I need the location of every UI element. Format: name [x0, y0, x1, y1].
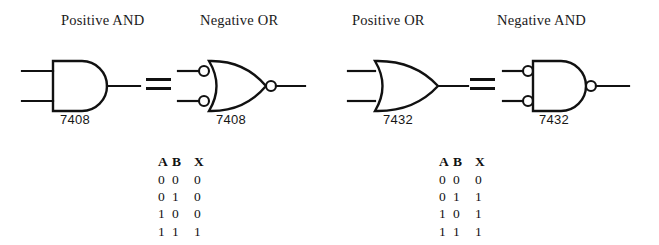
cell-a: 0: [439, 173, 453, 190]
cell-x: 1: [194, 225, 208, 242]
input-bubble-a-icon: [523, 66, 533, 76]
gate-positive-or: [348, 56, 473, 118]
cell-x: 1: [475, 207, 489, 224]
cell-b: 0: [453, 173, 475, 190]
table-row: 0 1 0: [158, 190, 208, 207]
cell-a: 1: [439, 225, 453, 242]
equals-bar-bottom: [146, 87, 171, 90]
part-number-7432-and: 7432: [539, 112, 569, 127]
header-x: X: [475, 155, 489, 173]
output-bubble-icon: [586, 81, 596, 91]
cell-b: 0: [453, 207, 475, 224]
header-a: A: [158, 155, 172, 173]
input-bubble-b-icon: [199, 96, 209, 106]
and-gate-body: [533, 61, 586, 111]
header-b: B: [172, 155, 194, 173]
cell-b: 0: [172, 173, 194, 190]
cell-a: 1: [158, 207, 172, 224]
equals-sign-2: [470, 78, 495, 90]
cell-a: 1: [158, 225, 172, 242]
input-bubble-a-icon: [199, 66, 209, 76]
part-number-7408-or: 7408: [216, 112, 246, 127]
table-row: 0 0 0: [439, 173, 489, 190]
cell-b: 1: [453, 225, 475, 242]
table-row: 1 0 1: [439, 207, 489, 224]
cell-x: 0: [194, 190, 208, 207]
equals-bar-top: [470, 78, 495, 81]
cell-b: 0: [172, 207, 194, 224]
cell-x: 1: [475, 225, 489, 242]
title-negative-and: Negative AND: [497, 12, 586, 29]
gate-negative-and: [503, 56, 643, 118]
gate-positive-and: [22, 56, 147, 118]
header-x: X: [194, 155, 208, 173]
title-positive-or: Positive OR: [352, 12, 425, 29]
cell-x: 0: [194, 207, 208, 224]
part-number-7432-or: 7432: [383, 112, 413, 127]
table-row: 1 0 0: [158, 207, 208, 224]
and-gate-body: [53, 61, 107, 111]
header-b: B: [453, 155, 475, 173]
cell-b: 1: [172, 190, 194, 207]
table-row: 0 0 0: [158, 173, 208, 190]
cell-x: 0: [475, 173, 489, 190]
table-row: 0 1 1: [439, 190, 489, 207]
output-bubble-icon: [266, 81, 276, 91]
cell-a: 1: [439, 207, 453, 224]
logic-gate-diagram: Positive AND Negative OR Positive OR Neg…: [0, 0, 659, 245]
title-negative-or: Negative OR: [200, 12, 278, 29]
truth-table-header-row: A B X: [439, 155, 489, 173]
equals-bar-bottom: [470, 87, 495, 90]
cell-a: 0: [439, 190, 453, 207]
cell-a: 0: [158, 173, 172, 190]
cell-a: 0: [158, 190, 172, 207]
input-bubble-b-icon: [523, 96, 533, 106]
table-row: 1 1 1: [439, 225, 489, 242]
equals-sign-1: [146, 78, 171, 90]
cell-b: 1: [172, 225, 194, 242]
table-row: 1 1 1: [158, 225, 208, 242]
equals-bar-top: [146, 78, 171, 81]
cell-x: 0: [194, 173, 208, 190]
part-number-7408-and: 7408: [60, 112, 90, 127]
title-positive-and: Positive AND: [61, 12, 144, 29]
header-a: A: [439, 155, 453, 173]
truth-table-header-row: A B X: [158, 155, 208, 173]
or-gate-body: [209, 61, 266, 111]
or-gate-body: [375, 61, 438, 111]
truth-table-or: A B X 0 0 0 0 1 1 1 0 1 1 1: [439, 155, 489, 242]
cell-b: 1: [453, 190, 475, 207]
cell-x: 1: [475, 190, 489, 207]
truth-table-and: A B X 0 0 0 0 1 0 1 0 0 1 1: [158, 155, 208, 242]
gate-negative-or: [178, 56, 310, 118]
